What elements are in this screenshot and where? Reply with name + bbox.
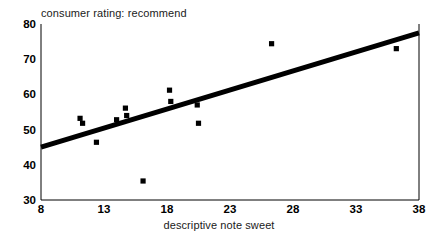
trend-line-segment xyxy=(41,33,419,147)
x-tick-label: 33 xyxy=(350,203,363,215)
y-tick-label: 70 xyxy=(8,53,36,65)
x-tick-label: 28 xyxy=(287,203,300,215)
x-tick-label: 8 xyxy=(38,203,44,215)
x-tick-label: 38 xyxy=(413,203,426,215)
data-point xyxy=(394,46,399,51)
y-tick-label: 30 xyxy=(8,194,36,206)
y-tick-label: 80 xyxy=(8,18,36,30)
data-point xyxy=(196,121,201,126)
plot-area xyxy=(0,0,438,247)
data-point xyxy=(140,178,145,183)
scatter-chart: consumer rating: recommend 304050607080 … xyxy=(0,0,438,247)
y-tick-label: 40 xyxy=(8,159,36,171)
data-point xyxy=(77,116,82,121)
trend-line xyxy=(41,33,419,147)
data-point xyxy=(94,140,99,145)
y-tick-label: 50 xyxy=(8,124,36,136)
y-tick-label: 60 xyxy=(8,88,36,100)
data-point xyxy=(124,113,129,118)
data-point xyxy=(167,88,172,93)
x-tick-label: 13 xyxy=(98,203,111,215)
data-point xyxy=(114,117,119,122)
data-point xyxy=(168,99,173,104)
data-point xyxy=(123,106,128,111)
x-axis-title: descriptive note sweet xyxy=(0,219,438,231)
data-point xyxy=(269,41,274,46)
data-points xyxy=(77,41,398,183)
x-tick-label: 23 xyxy=(224,203,237,215)
x-tick-label: 18 xyxy=(161,203,174,215)
data-point xyxy=(80,121,85,126)
data-point xyxy=(195,102,200,107)
